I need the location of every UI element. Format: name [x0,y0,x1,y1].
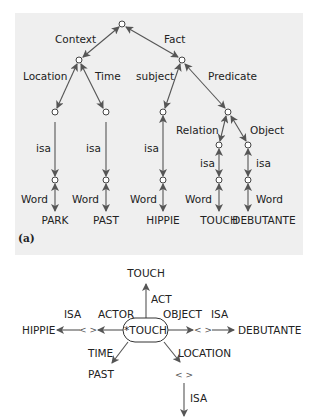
root-node [119,21,125,27]
object-node [245,142,251,148]
relation-node [216,142,222,148]
leaf-past: PAST [93,214,120,226]
edge-label-location: Location [23,70,67,82]
debutante-word-node [245,177,251,183]
edge-label-predicate: Predicate [208,70,257,82]
edge-label-fact: Fact [164,33,185,45]
past-word-node [103,177,109,183]
time-target: PAST [88,368,115,380]
edge-label-time: Time [94,70,121,82]
edge-label-context: Context [55,33,96,45]
object-isa-label: ISA [211,308,229,320]
location-node [52,109,58,115]
subject-node [160,109,166,115]
predicate-node [225,109,231,115]
time-label: TIME [87,347,113,359]
isa-label-park: isa [36,142,51,154]
edge-label-subject: subject [136,70,174,82]
actor-target: HIPPIE [22,324,55,336]
isa-label-touch: isa [200,157,215,169]
actor-placeholder: < > [79,325,97,335]
actor-isa-label: ISA [64,308,82,320]
location-label: LOCATION [178,347,231,359]
location-placeholder: < > [175,370,193,380]
figure-b: TOUCH ACT *TOUCH < > HIPPIE ISA ACTOR < … [22,267,301,416]
semantic-network-diagram: Context Fact Location Time subject Predi… [0,0,314,418]
object-target: DEBUTANTE [238,324,301,336]
isa-label-past: isa [86,142,101,154]
word-label-past: Word [72,193,99,205]
actor-label: ACTOR [98,308,134,320]
figure-a-label: (a) [18,232,35,244]
word-label-debutante: Word [256,193,283,205]
leaf-park: PARK [41,214,69,226]
edge-label-relation: Relation [176,124,219,136]
word-label-hippie: Word [130,193,157,205]
leaf-hippie: HIPPIE [146,214,179,226]
object-placeholder: < > [194,325,212,335]
context-node [76,57,82,63]
word-label-park: Word [21,193,48,205]
act-target: TOUCH [126,267,165,279]
time-node [103,109,109,115]
location-isa-label: ISA [190,392,208,404]
park-word-node [52,177,58,183]
hippie-word-node [160,177,166,183]
act-label: ACT [151,293,172,305]
object-label: OBJECT [163,308,203,320]
isa-label-hippie: isa [144,142,159,154]
isa-label-debutante: isa [256,157,271,169]
fact-node [179,57,185,63]
edge-label-object: Object [250,124,284,136]
touch-word-node [216,177,222,183]
word-label-touch: Word [185,193,212,205]
center-concept: *TOUCH [124,324,167,336]
leaf-debutante: DEBUTANTE [232,214,295,226]
